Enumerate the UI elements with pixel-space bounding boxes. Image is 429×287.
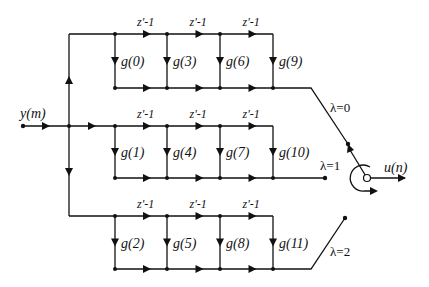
- coefficient-label: g(9): [279, 54, 303, 70]
- input-label: y(m): [18, 106, 46, 122]
- coefficient-label: g(7): [226, 145, 250, 161]
- delay-label: z'-1: [136, 15, 154, 29]
- coefficient-label: g(6): [226, 54, 250, 70]
- switch-label-lambda-2: λ=2: [330, 244, 350, 259]
- coefficient-label: g(2): [121, 236, 145, 252]
- coefficient-label: g(8): [226, 236, 250, 252]
- output-label: u(n): [384, 160, 408, 176]
- branch-2: g(2)z'-1g(5)z'-1g(8)z'-1g(11): [111, 197, 309, 273]
- coefficient-label: g(11): [279, 236, 309, 252]
- switch-label-lambda-1: λ=1: [320, 158, 340, 173]
- coefficient-label: g(10): [279, 145, 310, 161]
- switch-line-lambda-0: λ=0: [273, 88, 350, 146]
- switch-line-lambda-1: λ=1: [273, 158, 340, 180]
- coefficient-label: g(5): [173, 236, 197, 252]
- polyphase-filter-diagram: y(m) g(0)z'-1g(3)z'-1g(6)z'-1g(9)g(1)z'-…: [0, 0, 429, 287]
- delay-label: z'-1: [136, 107, 154, 121]
- delay-label: z'-1: [189, 15, 207, 29]
- delay-label: z'-1: [189, 197, 207, 211]
- delay-label: z'-1: [242, 197, 260, 211]
- delay-label: z'-1: [242, 15, 260, 29]
- switch-label-lambda-0: λ=0: [330, 100, 350, 115]
- coefficient-label: g(3): [173, 54, 197, 70]
- commutator-switch: u(n): [347, 144, 408, 195]
- branch-0: g(0)z'-1g(3)z'-1g(6)z'-1g(9): [111, 15, 303, 92]
- delay-label: z'-1: [189, 107, 207, 121]
- coefficient-label: g(1): [121, 145, 145, 161]
- branch-1: g(1)z'-1g(4)z'-1g(7)z'-1g(10): [111, 107, 310, 182]
- delay-label: z'-1: [136, 197, 154, 211]
- coefficient-label: g(0): [121, 54, 145, 70]
- delay-label: z'-1: [242, 107, 260, 121]
- input-node: y(m): [18, 106, 115, 130]
- coefficient-label: g(4): [173, 145, 197, 161]
